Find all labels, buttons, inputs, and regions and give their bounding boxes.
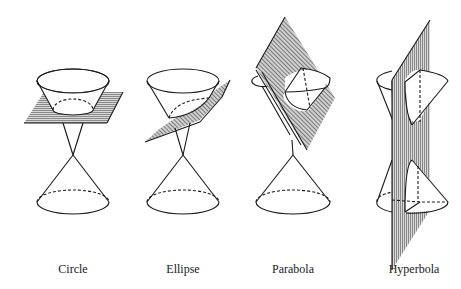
circle-panel: [24, 69, 123, 214]
label-parabola: Parabola: [272, 262, 314, 277]
label-hyperbola: Hyperbola: [389, 262, 440, 277]
label-circle: Circle: [58, 262, 87, 277]
label-ellipse: Ellipse: [166, 262, 199, 277]
conic-sections-figure: [0, 0, 461, 289]
ellipse-panel: [145, 69, 230, 214]
parabola-panel: [252, 17, 335, 214]
hyperbola-panel: [377, 20, 448, 270]
hyperbola-cutting-plane: [392, 20, 430, 270]
